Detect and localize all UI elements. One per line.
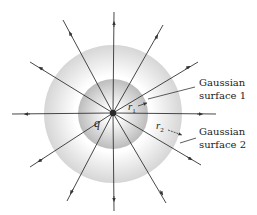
surface2-label-line1: Gaussian <box>199 126 246 137</box>
field-line-arrow-icon <box>39 159 42 161</box>
surface1-label-line2: surface 1 <box>199 90 246 101</box>
surface2-leader-line <box>180 138 196 143</box>
charge-label: q <box>94 116 100 130</box>
point-charge <box>110 110 116 116</box>
surface1-label-line1: Gaussian <box>199 77 246 88</box>
field-line-arrow-icon <box>70 33 72 37</box>
gauss-law-diagram: q r1 r2 Gaussian surface 1 Gaussian surf… <box>0 0 257 215</box>
field-line-arrow-icon <box>187 157 190 159</box>
surface2-label-line2: surface 2 <box>199 139 246 150</box>
